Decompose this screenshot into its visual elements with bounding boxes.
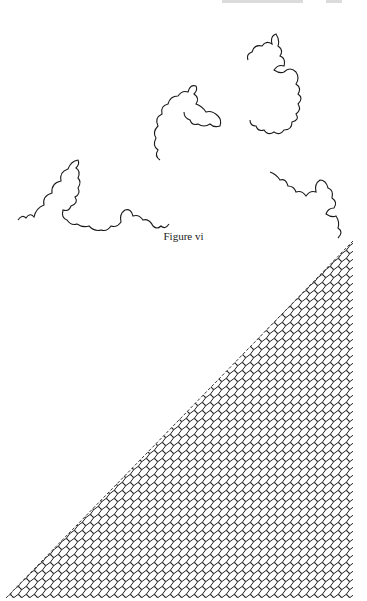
figure-canvas [0,0,367,601]
space-filling-triangle [0,236,367,601]
fractal-curve [18,34,341,238]
figure-caption: Figure vi [0,230,367,242]
